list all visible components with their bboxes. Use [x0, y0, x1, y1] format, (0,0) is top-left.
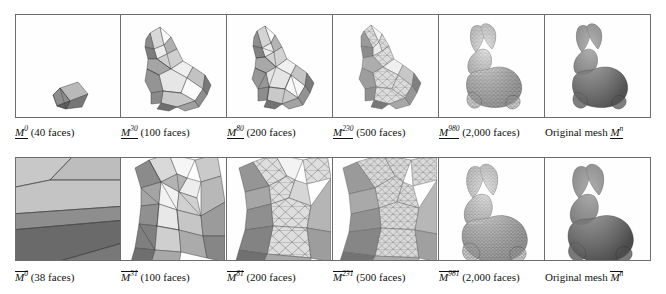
mesh-render-closeup-500: [333, 158, 437, 260]
figure-cell: M80 (200 faces): [227, 14, 333, 118]
face-count-label: (38 faces): [31, 271, 75, 283]
caption-mesh-m0: M0 (40 faces): [15, 126, 133, 139]
mesh-panel-m980: [439, 14, 545, 118]
mesh-symbol: M231: [333, 271, 353, 283]
closeup-panel-mbar981: [439, 157, 545, 261]
face-count-label: (100 faces): [140, 271, 189, 283]
mesh-panel-m80: [227, 14, 333, 118]
mesh-panel-m0: [15, 14, 121, 118]
caption-mesh-m230: M230 (500 faces): [333, 126, 451, 139]
mesh-symbol: M981: [439, 271, 459, 283]
caption-mesh-m980: M980 (2,000 faces): [439, 126, 557, 139]
figure-cell: Original mesh Mn: [545, 14, 651, 118]
figure-cell: M81 (200 faces): [227, 157, 333, 261]
face-count-label: (100 faces): [140, 126, 189, 138]
mesh-symbol: M980: [439, 127, 459, 139]
figure-cell: M981 (2,000 faces): [439, 157, 545, 261]
mesh-panel-m230: [333, 14, 439, 118]
mesh-render-closeup-2000: [439, 158, 543, 260]
face-count-label: (2,000 faces): [462, 126, 519, 138]
closeup-panel-mbar0: [15, 157, 121, 261]
mesh-render-coarse-tetra: [16, 15, 120, 117]
face-count-label: (500 faces): [356, 271, 405, 283]
closeup-panel-mbar31: [121, 157, 227, 261]
mesh-symbol: M0: [15, 127, 28, 139]
mesh-render-bunny-original: [545, 15, 649, 117]
figure-cell: M31 (100 faces): [121, 157, 227, 261]
closeup-panel-original-bottom: [545, 157, 651, 261]
figure-cell: M230 (500 faces): [333, 14, 439, 118]
figure-cell: Original mesh Mn: [545, 157, 651, 261]
closeup-panel-mbar81: [227, 157, 333, 261]
progressive-mesh-figure: M0 (40 faces): [0, 0, 666, 294]
closeup-panel-mbar231: [333, 157, 439, 261]
caption-closeup-mbar231: M231 (500 faces): [333, 271, 451, 284]
caption-closeup-mbar0: M0 (38 faces): [15, 271, 133, 284]
mesh-symbol: M81: [227, 271, 244, 283]
caption-closeup-mbar31: M31 (100 faces): [121, 271, 239, 284]
figure-cell: M231 (500 faces): [333, 157, 439, 261]
figure-row-top: M0 (40 faces): [15, 14, 651, 118]
face-count-label: (200 faces): [246, 271, 295, 283]
face-count-label: (40 faces): [31, 126, 75, 138]
figure-row-bottom: M0 (38 faces): [15, 157, 651, 261]
mesh-panel-original-top: [545, 14, 651, 118]
figure-cell: M30 (100 faces): [121, 14, 227, 118]
caption-closeup-mbar981: M981 (2,000 faces): [439, 271, 557, 284]
face-count-label: (2,000 faces): [462, 271, 519, 283]
original-mesh-prefix: Original mesh: [545, 126, 610, 138]
original-mesh-prefix: Original mesh: [545, 271, 610, 283]
mesh-render-bunny-2000: [439, 15, 543, 117]
mesh-symbol: Mn: [610, 271, 623, 283]
caption-mesh-original-top: Original mesh Mn: [545, 126, 663, 139]
caption-mesh-m80: M80 (200 faces): [227, 126, 345, 139]
caption-mesh-m30: M30 (100 faces): [121, 126, 239, 139]
mesh-render-closeup-200: [227, 158, 331, 260]
mesh-symbol: M30: [121, 127, 138, 139]
face-count-label: (500 faces): [356, 126, 405, 138]
mesh-render-bunny-500: [333, 15, 437, 117]
mesh-symbol: M80: [227, 127, 244, 139]
mesh-render-closeup-38: [16, 158, 120, 260]
mesh-symbol: M31: [121, 271, 138, 283]
figure-cell: M0 (40 faces): [15, 14, 121, 118]
mesh-render-closeup-original: [545, 158, 649, 260]
mesh-render-bunny-100: [121, 15, 225, 117]
mesh-symbol: M230: [333, 127, 353, 139]
face-count-label: (200 faces): [246, 126, 295, 138]
mesh-panel-m30: [121, 14, 227, 118]
mesh-symbol: M0: [15, 271, 28, 283]
mesh-render-bunny-200: [227, 15, 331, 117]
figure-cell: M0 (38 faces): [15, 157, 121, 261]
figure-cell: M980 (2,000 faces): [439, 14, 545, 118]
caption-closeup-original-bottom: Original mesh Mn: [545, 271, 663, 284]
caption-closeup-mbar81: M81 (200 faces): [227, 271, 345, 284]
mesh-symbol: Mn: [610, 127, 623, 139]
mesh-render-closeup-100: [121, 158, 225, 260]
